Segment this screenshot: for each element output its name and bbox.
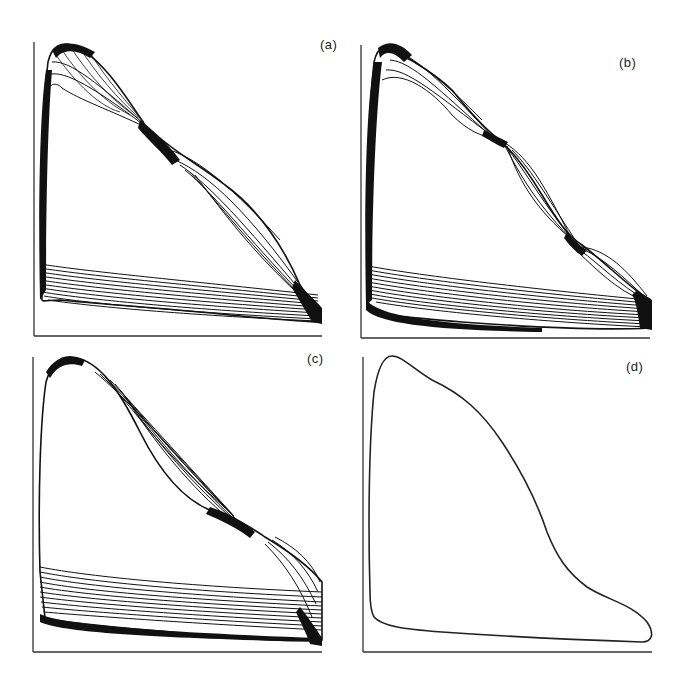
panel-label-c: (c) — [307, 351, 324, 366]
figure: (a) — [0, 0, 683, 684]
axes — [363, 357, 652, 652]
trajectory-band — [40, 44, 321, 322]
panel-label-b: (b) — [619, 55, 636, 70]
panel-label-d: (d) — [626, 359, 643, 374]
axes — [361, 45, 650, 338]
limit-cycle — [369, 356, 652, 642]
panel-a: (a) — [0, 0, 342, 342]
trajectory-band — [39, 357, 322, 641]
panel-c: (c) — [0, 342, 342, 684]
dense-regions — [40, 357, 322, 646]
panel-d: (d) — [342, 342, 683, 684]
panel-label-a: (a) — [320, 37, 337, 52]
panel-b-plot — [342, 0, 683, 342]
trajectory-band — [367, 46, 650, 329]
panel-b: (b) — [342, 0, 683, 342]
panel-d-plot — [342, 342, 683, 684]
panel-a-plot — [0, 0, 342, 342]
panel-c-plot — [0, 342, 342, 684]
